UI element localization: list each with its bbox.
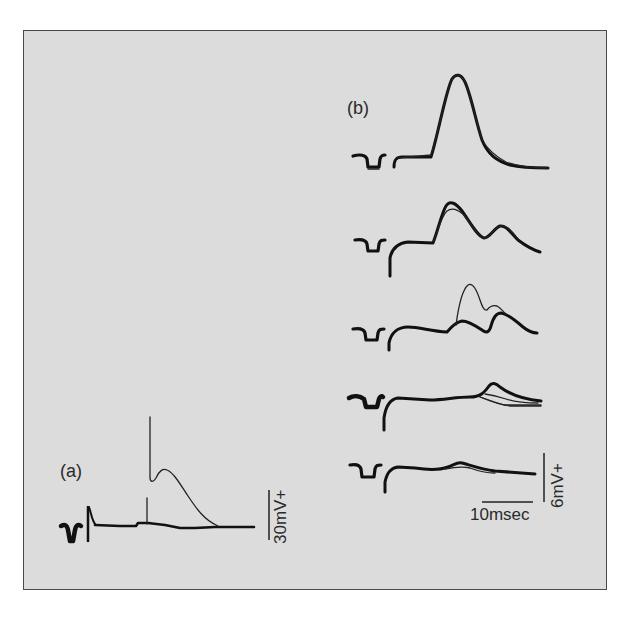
row-2-trace-thin [433,209,519,242]
panel-a-trace-thick [95,523,254,528]
panel-b-label: (b) [347,98,369,118]
panel-a: (a) 30mV+ [60,417,290,544]
figure-canvas: (a) 30mV+ (b) [0,0,636,617]
row-1-trace-thin [398,75,548,168]
row-1-trace-thick [394,75,548,168]
row-2-stimulus-icon [355,240,385,251]
row-5-stimulus-icon [350,465,381,477]
row-2-trace-thick [390,203,540,276]
row-3-trace-thick [389,313,537,350]
panel-b: (b) [347,75,567,524]
panel-b-row-5 [350,463,535,492]
panel-b-voltage-scale-label: 6mV+ [548,463,567,508]
panel-b-row-2 [355,203,540,276]
row-3-stimulus-icon [353,329,384,340]
panel-b-time-scale-label: 10msec [470,505,530,524]
panel-a-artifact-spike [89,507,96,525]
panel-a-stimulus-icon [61,525,81,541]
panel-b-row-4 [349,383,541,430]
panel-b-row-3 [353,284,537,350]
row-4-stimulus-icon [349,396,383,407]
panel-b-row-1 [353,75,548,169]
row-3-trace-thin [456,284,506,325]
row-1-stimulus-icon [353,155,385,167]
panel-a-label: (a) [60,461,82,481]
panel-a-trace-thin [150,417,218,526]
panel-a-scale-label: 30mV+ [271,490,290,544]
row-4-trace-thick [384,383,541,430]
